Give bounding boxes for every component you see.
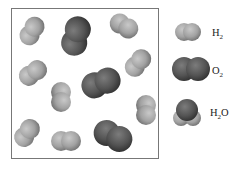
molecule-diagram: H2 O2 H2O — [0, 0, 244, 169]
legend-item-o2: O2 — [172, 57, 224, 81]
legend-label-h2o: H2O — [210, 107, 229, 121]
h2-molecule — [10, 115, 44, 151]
h2-molecule — [106, 10, 142, 42]
o2-molecule — [78, 64, 124, 102]
legend: H2 O2 H2O — [172, 23, 229, 126]
h2-molecule — [136, 95, 156, 125]
legend-label-h2: H2 — [212, 27, 224, 41]
legend-label-o2: O2 — [212, 65, 224, 79]
legend-item-h2o: H2O — [173, 99, 229, 126]
h2o-molecule-icon — [173, 99, 201, 126]
o2-molecule — [58, 13, 93, 58]
o2-molecule — [89, 116, 136, 156]
h2-molecule — [51, 82, 71, 112]
o2-molecule-icon — [172, 57, 210, 81]
h2-molecule — [121, 45, 156, 81]
h2-molecule — [15, 56, 51, 90]
h2-molecule-icon — [175, 23, 201, 41]
h2-molecule — [16, 13, 48, 49]
legend-item-h2: H2 — [175, 23, 224, 41]
h2-molecule — [51, 131, 81, 151]
